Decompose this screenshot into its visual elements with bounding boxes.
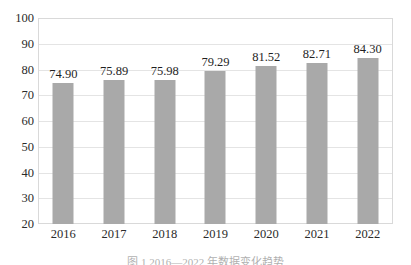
y-axis-tick-label: 20 — [22, 218, 35, 231]
bar — [53, 83, 74, 224]
bar-slot — [38, 18, 89, 224]
bar-slot — [342, 18, 393, 224]
y-axis: 2030405060708090100 — [0, 18, 34, 224]
y-axis-tick-label: 90 — [22, 38, 35, 51]
bar — [104, 80, 125, 224]
x-axis-tick-label: 2021 — [304, 228, 329, 241]
bar — [154, 80, 175, 224]
y-axis-tick-label: 30 — [22, 192, 35, 205]
bar-slot — [241, 18, 292, 224]
figure-caption: 图 1 2016—2022 年数据变化趋势 — [0, 256, 411, 265]
bar — [357, 58, 378, 224]
bar-series — [38, 18, 393, 224]
bar — [205, 71, 226, 224]
bar-slot — [292, 18, 343, 224]
bar-chart-figure: 2030405060708090100 74.9075.8975.9879.29… — [0, 0, 411, 265]
x-axis-tick-label: 2019 — [203, 228, 228, 241]
y-axis-tick-label: 70 — [22, 89, 35, 102]
x-axis-tick-label: 2020 — [254, 228, 279, 241]
x-axis: 2016201720182019202020212022 — [38, 228, 393, 246]
bar-slot — [89, 18, 140, 224]
x-axis-tick-label: 2017 — [102, 228, 127, 241]
y-axis-tick-label: 50 — [22, 141, 35, 154]
x-axis-tick-label: 2016 — [51, 228, 76, 241]
y-axis-tick-label: 60 — [22, 115, 35, 128]
bar-slot — [190, 18, 241, 224]
y-axis-tick-label: 80 — [22, 63, 35, 76]
y-axis-tick-label: 100 — [15, 12, 34, 25]
x-axis-tick-label: 2022 — [355, 228, 380, 241]
bar — [256, 66, 277, 224]
bar — [306, 63, 327, 224]
bar-slot — [139, 18, 190, 224]
y-axis-tick-label: 40 — [22, 166, 35, 179]
x-axis-tick-label: 2018 — [152, 228, 177, 241]
